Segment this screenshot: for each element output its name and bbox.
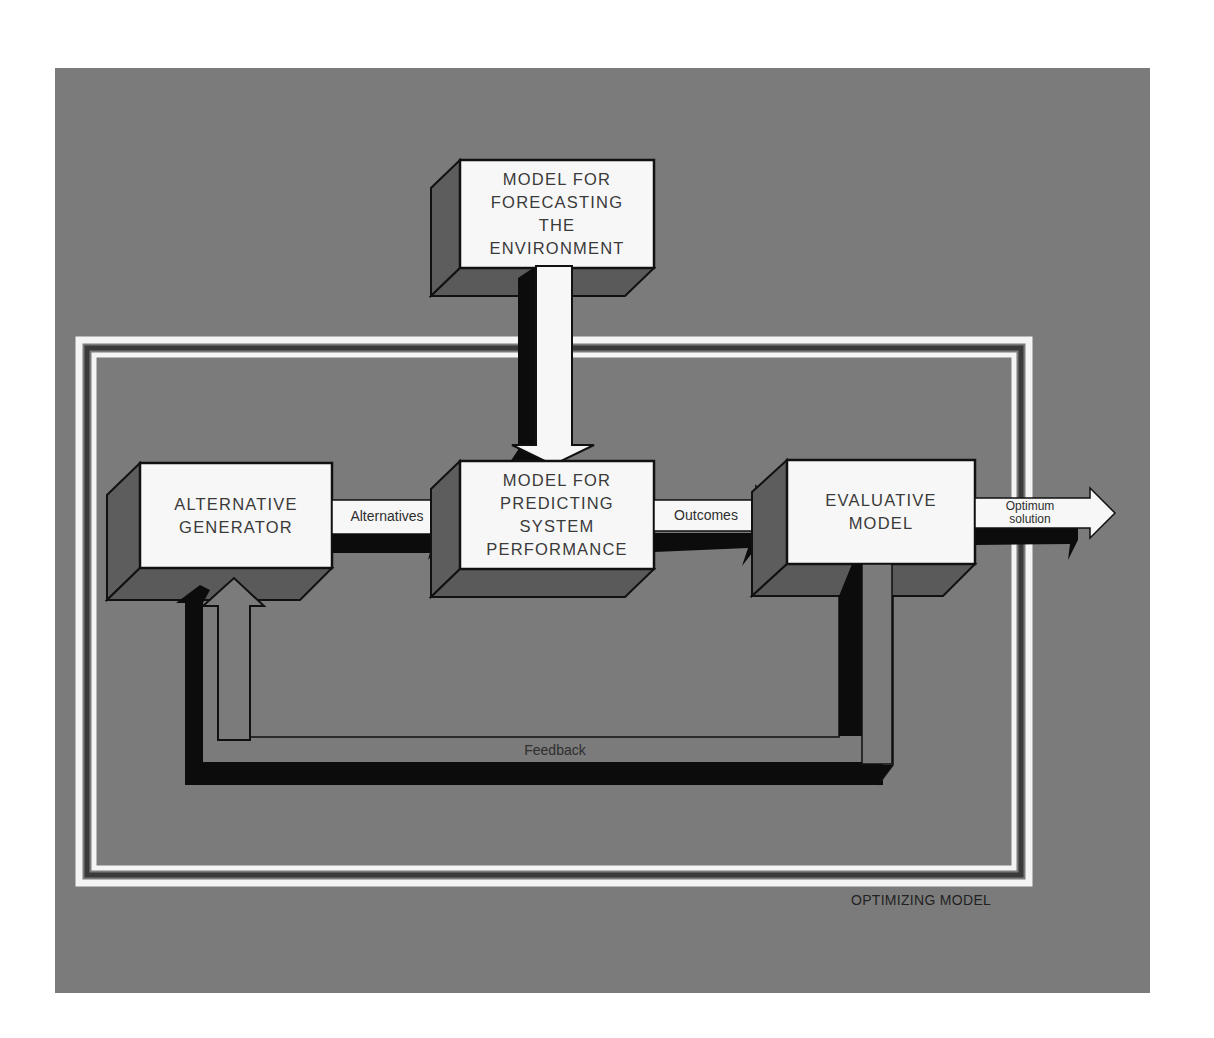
optimum-line-2: solution: [982, 513, 1078, 526]
forecast-line-3: THE: [539, 214, 576, 237]
predicting-line-1: MODEL FOR: [503, 469, 611, 492]
forecast-line-4: ENVIRONMENT: [489, 237, 624, 260]
forecast-model-box: MODEL FOR FORECASTING THE ENVIRONMENT: [460, 160, 654, 268]
optimum-solution-label: Optimum solution: [982, 500, 1078, 526]
alt-gen-line-1: ALTERNATIVE: [174, 493, 298, 516]
alt-gen-line-2: GENERATOR: [179, 516, 293, 539]
outcomes-label: Outcomes: [656, 507, 756, 523]
alternative-generator-box: ALTERNATIVE GENERATOR: [140, 463, 332, 568]
predicting-line-2: PREDICTING: [500, 492, 614, 515]
evaluative-model-box: EVALUATIVE MODEL: [787, 460, 975, 564]
evaluative-line-1: EVALUATIVE: [825, 489, 936, 512]
predicting-line-4: PERFORMANCE: [486, 538, 628, 561]
predicting-model-box: MODEL FOR PREDICTING SYSTEM PERFORMANCE: [460, 461, 654, 569]
forecast-line-1: MODEL FOR: [503, 168, 611, 191]
evaluative-feedback-connector: [839, 564, 892, 764]
predicting-line-3: SYSTEM: [519, 515, 594, 538]
optimizing-model-caption: OPTIMIZING MODEL: [851, 892, 991, 908]
alternatives-label: Alternatives: [334, 508, 440, 524]
evaluative-line-2: MODEL: [849, 512, 914, 535]
feedback-label: Feedback: [500, 742, 610, 758]
forecast-line-2: FORECASTING: [491, 191, 623, 214]
